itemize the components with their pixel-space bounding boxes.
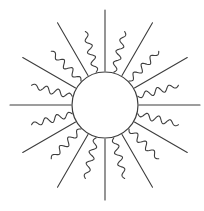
sun-ray-straight-16: [58, 134, 89, 187]
sun-ray-wavy-1: [138, 85, 179, 97]
sun-ray-wavy-23: [138, 113, 179, 125]
sun-ray-wavy-5: [113, 32, 125, 73]
sun-ray-wavy-19: [112, 138, 124, 179]
sun-core-circle: [72, 72, 138, 138]
sun-figure: [0, 0, 204, 211]
sun-ray-straight-10: [23, 58, 76, 89]
sun-ray-wavy-11: [32, 84, 73, 96]
sun-ray-wavy-13: [32, 112, 73, 124]
sun-ray-wavy-7: [85, 32, 97, 73]
sun-ray-straight-4: [122, 23, 153, 76]
sun-ray-straight-22: [134, 122, 187, 153]
sun-ray-wavy-17: [84, 138, 96, 179]
sun-drawing-canvas: [0, 0, 204, 211]
